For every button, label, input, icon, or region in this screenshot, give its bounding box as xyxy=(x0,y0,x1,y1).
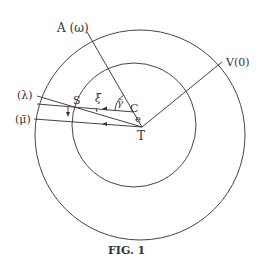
label-e: e xyxy=(135,113,141,124)
label-A: A (ω) xyxy=(56,21,89,35)
figure-caption: FIG. 1 xyxy=(108,244,145,257)
label-S: S xyxy=(73,94,81,107)
label-T: T xyxy=(137,129,145,143)
label-V: V(0) xyxy=(225,56,250,69)
arrow-down-icon xyxy=(66,112,70,117)
orbit-diagram: A (ω) V(0) (λ) (μ̄) S ξ γ̄ C e T FIG. 1 xyxy=(0,0,259,262)
label-mu: (μ̄) xyxy=(15,113,31,126)
line-mu xyxy=(34,119,142,127)
label-xi: ξ xyxy=(95,92,102,105)
line-V xyxy=(142,62,222,127)
arrow-icon xyxy=(102,122,107,126)
label-gamma: γ̄ xyxy=(117,97,123,108)
label-lambda: (λ) xyxy=(17,89,33,102)
